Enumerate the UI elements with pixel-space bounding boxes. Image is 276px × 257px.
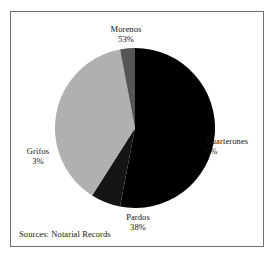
pie-label-pardos-name: Pardos	[98, 212, 178, 222]
pie-label-cuarterones-value: 6%	[206, 146, 276, 156]
pie-label-grifos: Grifos 3%	[8, 146, 68, 166]
pie-label-morenos: Morenos 53%	[83, 24, 169, 44]
plot-area: Morenos 53% Cuarterones 6% Grifos 3% Par…	[0, 0, 276, 257]
pie-label-grifos-value: 3%	[8, 156, 68, 166]
pie-label-morenos-name: Morenos	[83, 24, 169, 34]
source-note: Sources: Notarial Records	[19, 229, 111, 240]
pie-label-cuarterones-name: Cuarterones	[206, 136, 276, 146]
pie-label-morenos-value: 53%	[83, 34, 169, 44]
pie-label-cuarterones: Cuarterones 6%	[206, 136, 276, 156]
pie-chart-graphic	[55, 48, 215, 208]
pie-label-grifos-name: Grifos	[8, 146, 68, 156]
pie-chart-figure: Morenos 53% Cuarterones 6% Grifos 3% Par…	[0, 0, 276, 257]
